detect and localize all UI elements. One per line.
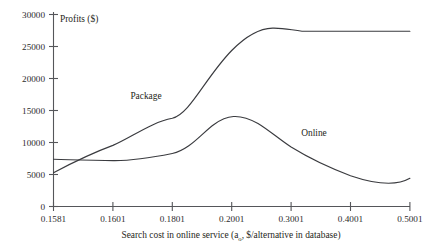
series-label-online: Online [301, 128, 327, 138]
x-axis-title-main: Search cost in online service (a [121, 230, 239, 241]
series-curve-package [54, 28, 410, 173]
x-tick-label: 0.4001 [338, 214, 364, 224]
y-tick-label: 20000 [22, 74, 45, 84]
profits-line-chart: 0 5000 10000 15000 20000 25000 30000 0.1… [0, 0, 436, 248]
x-tick-label: 0.3001 [278, 214, 304, 224]
series-curve-online [54, 116, 410, 183]
y-tick-label: 30000 [22, 10, 45, 20]
x-tick-label: 0.2001 [219, 214, 245, 224]
y-tick-label: 25000 [22, 42, 45, 52]
y-tick-label: 5000 [27, 170, 46, 180]
x-axis-title: Search cost in online service (ao, $/alt… [121, 230, 340, 242]
y-tick-label: 15000 [22, 106, 45, 116]
x-tick-label: 0.1581 [41, 214, 67, 224]
series-label-package: Package [130, 91, 161, 101]
x-tick-label: 0.1801 [160, 214, 186, 224]
x-tick-label: 0.5001 [397, 214, 423, 224]
y-tick-labels: 0 5000 10000 15000 20000 25000 30000 [22, 10, 45, 212]
y-tick-label: 0 [40, 202, 45, 212]
x-tick-labels: 0.1581 0.1601 0.1801 0.2001 0.3001 0.400… [41, 214, 423, 224]
x-tick-label: 0.1601 [100, 214, 126, 224]
x-axis-title-tail: , $/alternative in database) [242, 230, 341, 241]
y-tick-label: 10000 [22, 138, 45, 148]
chart-figure: 0 5000 10000 15000 20000 25000 30000 0.1… [0, 0, 436, 248]
y-axis-title: Profits ($) [60, 14, 98, 25]
